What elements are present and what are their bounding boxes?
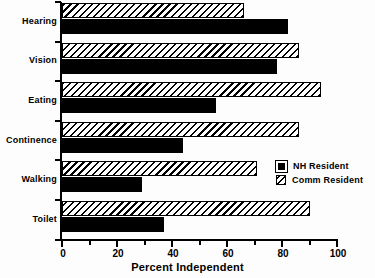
bar-nh-resident-toilet bbox=[62, 217, 164, 232]
x-tick-major bbox=[226, 241, 228, 247]
y-axis-label-continence: Continence bbox=[6, 135, 57, 145]
bar-group bbox=[62, 2, 337, 42]
y-tick bbox=[55, 41, 61, 43]
x-tick-minor bbox=[199, 241, 201, 245]
legend-label-nh-resident: NH Resident bbox=[293, 161, 349, 171]
x-tick-minor bbox=[144, 241, 146, 245]
y-tick bbox=[55, 120, 61, 122]
legend-item-nh-resident: NH Resident bbox=[276, 160, 363, 172]
hatched-swatch-icon bbox=[276, 175, 286, 185]
bar-group bbox=[62, 81, 337, 121]
y-axis-label-hearing: Hearing bbox=[22, 16, 57, 26]
y-axis-label-vision: Vision bbox=[29, 55, 57, 65]
y-axis-label-walking: Walking bbox=[21, 174, 57, 184]
legend-label-comm-resident: Comm Resident bbox=[292, 175, 363, 185]
y-tick bbox=[55, 199, 61, 201]
bar-group bbox=[62, 121, 337, 161]
x-axis-title: Percent Independent bbox=[0, 261, 375, 273]
y-axis-label-toilet: Toilet bbox=[32, 214, 57, 224]
chart-legend: NH Resident Comm Resident bbox=[276, 160, 363, 188]
x-axis-tick-label-20: 20 bbox=[103, 248, 133, 260]
bar-chart: HearingVisionEatingContinenceWalkingToil… bbox=[0, 0, 375, 278]
bar-nh-resident-eating bbox=[62, 98, 216, 113]
x-tick-major bbox=[336, 241, 338, 247]
bar-nh-resident-hearing bbox=[62, 19, 288, 34]
x-axis-tick-label-40: 40 bbox=[158, 248, 188, 260]
y-tick bbox=[55, 80, 61, 82]
y-axis-label-eating: Eating bbox=[28, 95, 57, 105]
x-tick-major bbox=[171, 241, 173, 247]
bar-comm-resident-toilet bbox=[62, 201, 310, 216]
x-tick-major bbox=[61, 241, 63, 247]
x-tick-major bbox=[281, 241, 283, 247]
bar-comm-resident-continence bbox=[62, 122, 299, 137]
bar-nh-resident-vision bbox=[62, 59, 277, 74]
x-tick-minor bbox=[309, 241, 311, 245]
bar-comm-resident-hearing bbox=[62, 3, 244, 18]
x-tick-major bbox=[116, 241, 118, 247]
x-axis-tick-label-60: 60 bbox=[213, 248, 243, 260]
y-tick bbox=[55, 159, 61, 161]
x-tick-minor bbox=[254, 241, 256, 245]
x-axis-tick-label-100: 100 bbox=[323, 248, 353, 260]
legend-item-comm-resident: Comm Resident bbox=[276, 174, 363, 186]
y-tick bbox=[55, 1, 61, 3]
bar-nh-resident-walking bbox=[62, 177, 142, 192]
solid-black-swatch-icon bbox=[276, 161, 287, 172]
bar-group bbox=[62, 200, 337, 240]
x-axis-tick-label-0: 0 bbox=[48, 248, 78, 260]
bar-comm-resident-vision bbox=[62, 43, 299, 58]
bar-nh-resident-continence bbox=[62, 138, 183, 153]
bar-comm-resident-eating bbox=[62, 82, 321, 97]
x-axis-tick-label-80: 80 bbox=[268, 248, 298, 260]
x-tick-minor bbox=[89, 241, 91, 245]
bar-group bbox=[62, 42, 337, 82]
bar-comm-resident-walking bbox=[62, 161, 257, 176]
